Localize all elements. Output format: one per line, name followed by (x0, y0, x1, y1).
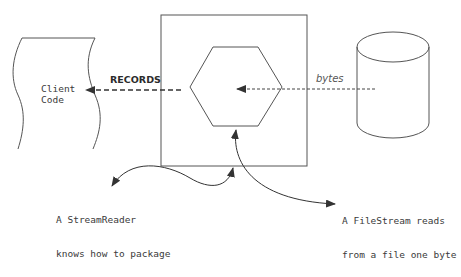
bytes-label: bytes (316, 73, 344, 84)
client-label-line1: Client (41, 83, 75, 94)
note-line: from a file one byte (342, 249, 456, 260)
filestream-hexagon (190, 47, 282, 126)
filestream-callout-curve (235, 130, 335, 204)
streamreader-note: A StreamReader knows how to package up t… (56, 192, 199, 277)
note-line: A StreamReader (56, 214, 199, 225)
note-line: knows how to package (56, 248, 199, 259)
client-label-line2: Code (41, 94, 64, 105)
file-cylinder (357, 32, 429, 138)
client-code-label: ClientCode (41, 83, 75, 105)
records-label: RECORDS (110, 74, 161, 85)
streamreader-callout-curve (112, 166, 233, 186)
note-line: A FileStream reads (342, 215, 456, 226)
streamreader-box (161, 15, 307, 166)
filestream-note: A FileStream reads from a file one byte … (342, 193, 456, 277)
